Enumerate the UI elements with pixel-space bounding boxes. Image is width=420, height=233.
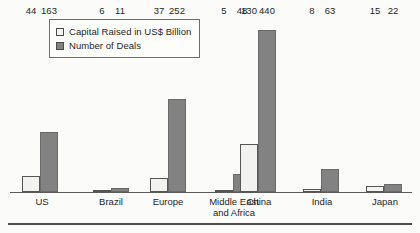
bar-capital-europe <box>150 178 168 192</box>
bar-pair-capital-middle-east-and-africa: 5 <box>215 17 233 192</box>
bar-deals-europe <box>168 99 186 192</box>
bar-value-capital-us: 44 <box>26 5 37 16</box>
bar-pair-deals-india: 63 <box>321 17 339 192</box>
bar-value-deals-europe: 252 <box>169 5 185 16</box>
bar-pair-deals-brazil: 11 <box>111 17 129 192</box>
bar-deals-india <box>321 169 339 192</box>
bar-deals-us <box>40 132 58 192</box>
bar-value-capital-europe: 37 <box>154 5 165 16</box>
bar-pair-capital-europe: 37 <box>150 17 168 192</box>
bar-value-deals-india: 63 <box>325 5 336 16</box>
x-axis-label-us: US <box>12 196 72 207</box>
bar-capital-japan <box>366 186 384 192</box>
bar-value-capital-india: 8 <box>309 5 314 16</box>
x-axis-line <box>10 192 412 193</box>
plot-area: 44 163 6 11 <box>0 0 420 233</box>
bar-pair-capital-brazil: 6 <box>93 17 111 192</box>
bar-pair-deals-europe: 252 <box>168 17 186 192</box>
bar-capital-us <box>22 176 40 192</box>
x-axis-label-india: India <box>292 196 352 207</box>
bar-value-capital-middle-east-and-africa: 5 <box>221 5 226 16</box>
bar-capital-brazil <box>93 190 111 192</box>
bar-value-deals-china: 440 <box>259 5 275 16</box>
bar-pair-deals-china: 440 <box>258 17 276 192</box>
bar-value-capital-brazil: 6 <box>99 5 104 16</box>
x-axis-label-china: China <box>229 196 289 207</box>
bar-value-deals-brazil: 11 <box>115 5 125 16</box>
bar-pair-capital-china: 130 <box>240 17 258 192</box>
bar-pair-deals-japan: 22 <box>384 17 402 192</box>
bar-value-deals-us: 163 <box>41 5 57 16</box>
bar-pair-deals-us: 163 <box>40 17 58 192</box>
bar-deals-china <box>258 30 276 192</box>
bottom-divider <box>8 223 412 225</box>
bar-capital-china <box>240 144 258 192</box>
bar-pair-capital-japan: 15 <box>366 17 384 192</box>
x-axis-label-brazil: Brazil <box>81 196 141 207</box>
bar-deals-japan <box>384 184 402 192</box>
bar-capital-middle-east-and-africa <box>215 190 233 192</box>
bar-value-deals-japan: 22 <box>388 5 399 16</box>
bar-chart: Capital Raised in US$ Billion Number of … <box>0 0 420 233</box>
bar-value-capital-china: 130 <box>241 5 257 16</box>
x-axis-label-japan: Japan <box>355 196 415 207</box>
bar-deals-brazil <box>111 188 129 192</box>
bar-pair-capital-us: 44 <box>22 17 40 192</box>
bar-capital-india <box>303 189 321 192</box>
bar-pair-capital-india: 8 <box>303 17 321 192</box>
bar-value-capital-japan: 15 <box>370 5 381 16</box>
